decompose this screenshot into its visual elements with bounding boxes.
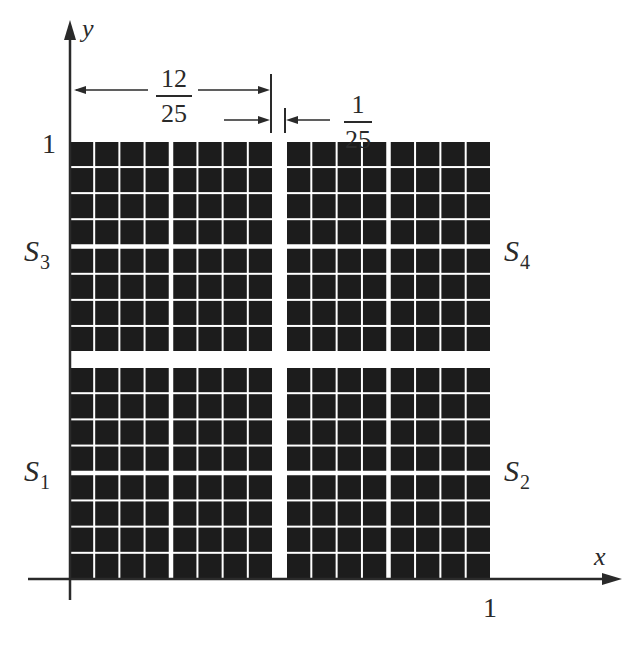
grid-square [391,394,414,418]
region-subscript: 3 [40,251,50,273]
grid-square [416,368,439,392]
grid-square [441,368,464,392]
grid-square [224,220,247,244]
grid-square [224,501,247,525]
grid-square [173,168,196,192]
grid-square [249,447,272,471]
grid-square [416,327,439,351]
grid-square [95,194,118,218]
grid-square [224,249,247,273]
grid-square [312,194,335,218]
grid-square [312,420,335,444]
grid-square [95,554,118,578]
grid-square [416,168,439,192]
grid-square [441,501,464,525]
grid-square [249,368,272,392]
grid-square [338,394,361,418]
grid-square [312,220,335,244]
grid-square [70,554,93,578]
grid-square [70,275,93,299]
grid-square [249,327,272,351]
grid-square [249,420,272,444]
grid-square [312,501,335,525]
grid-square [120,275,143,299]
grid-square [198,528,221,552]
y-tick-1: 1 [42,130,56,158]
grid-square [441,275,464,299]
grid-square [95,475,118,499]
grid-square [198,249,221,273]
region-letter: S [504,454,519,487]
grid-square [198,301,221,325]
grid-square [173,394,196,418]
grid-square [416,447,439,471]
grid-square [249,475,272,499]
fraction-numerator: 1 [352,90,365,119]
grid-square [312,327,335,351]
grid-square [224,327,247,351]
grid-square [363,249,386,273]
grid-square [467,554,490,578]
grid-square [249,249,272,273]
grid-square [198,501,221,525]
grid-square [467,447,490,471]
grid-square [70,327,93,351]
grid-square [224,475,247,499]
grid-square [312,168,335,192]
grid-square [467,220,490,244]
grid-square [338,447,361,471]
grid-square [198,368,221,392]
grid-square [173,420,196,444]
grid-square [467,501,490,525]
grid-square [224,368,247,392]
grid-square [338,501,361,525]
grid-square [173,368,196,392]
grid-square [146,528,169,552]
grid-square [95,394,118,418]
grid-square [198,420,221,444]
grid-square [146,554,169,578]
grid-square [467,327,490,351]
grid-square [312,368,335,392]
grid-square [287,327,310,351]
grid-square [441,327,464,351]
grid-square [173,142,196,166]
grid-square [249,275,272,299]
grid-square [391,168,414,192]
arrow-right-icon [258,86,270,94]
grid-square [146,368,169,392]
grid-square [363,275,386,299]
figure-canvas [0,0,633,648]
grid-square [441,447,464,471]
grid-square [173,327,196,351]
grid-square [70,368,93,392]
grid-square [391,249,414,273]
grid-square [198,475,221,499]
grid-square [312,249,335,273]
grid-square [146,327,169,351]
grid-square [391,368,414,392]
grid-square [416,528,439,552]
grid-square [70,475,93,499]
grid-square [198,554,221,578]
grid-square [416,194,439,218]
grid-square [312,275,335,299]
fraction-denominator: 25 [345,125,371,154]
grid-square [146,420,169,444]
gap-width-fraction: 1 25 [336,92,380,153]
grid-square [363,301,386,325]
grid-square [467,368,490,392]
grid-square [363,368,386,392]
grid-square [70,301,93,325]
grid-square [173,447,196,471]
grid-square [120,447,143,471]
grid-square [312,301,335,325]
arrow-left-icon [74,86,86,94]
grid-square [338,475,361,499]
grid-square [198,275,221,299]
grid-square [70,168,93,192]
grid-square [441,420,464,444]
grid-square [287,501,310,525]
grid-square [173,275,196,299]
grid-square [120,142,143,166]
